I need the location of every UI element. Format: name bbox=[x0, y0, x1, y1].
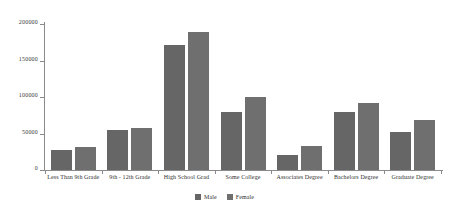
bar-female bbox=[75, 147, 96, 170]
y-axis-tick-label: 200000 bbox=[19, 19, 38, 25]
bar-group bbox=[277, 24, 322, 170]
x-axis-category-label: Some College bbox=[215, 174, 272, 180]
x-axis-category-label: Associates Degree bbox=[271, 174, 328, 180]
bar-male bbox=[277, 155, 298, 170]
x-axis-category-label: Less Than 9th Grade bbox=[45, 174, 102, 180]
y-axis-tick-label: 100000 bbox=[19, 92, 38, 98]
bar-female bbox=[188, 32, 209, 170]
y-axis-tick-label: 0 bbox=[35, 165, 38, 171]
bar-female bbox=[131, 128, 152, 170]
bar-group bbox=[164, 24, 209, 170]
y-axis-tick-label: 150000 bbox=[19, 56, 38, 62]
legend-swatch-icon bbox=[195, 194, 201, 200]
x-axis-category-label: High School Grad bbox=[158, 174, 215, 180]
bar-group bbox=[390, 24, 435, 170]
x-axis-category-label: 9th - 12th Grade bbox=[102, 174, 159, 180]
bar-female bbox=[358, 103, 379, 170]
legend-item-male[interactable]: Male bbox=[195, 194, 217, 200]
bar-group bbox=[107, 24, 152, 170]
x-axis-tick bbox=[441, 170, 442, 174]
plot-area bbox=[45, 24, 441, 170]
x-axis-category-label: Graduate Degree bbox=[384, 174, 441, 180]
bar-male bbox=[164, 45, 185, 170]
chart-legend: MaleFemale bbox=[0, 194, 449, 200]
legend-label: Female bbox=[236, 194, 254, 200]
legend-item-female[interactable]: Female bbox=[227, 194, 254, 200]
x-axis-line bbox=[44, 170, 443, 171]
bar-chart: 050000100000150000200000 Less Than 9th G… bbox=[0, 0, 449, 214]
bar-female bbox=[245, 97, 266, 170]
bar-male bbox=[334, 112, 355, 170]
y-axis-tick-label: 50000 bbox=[22, 129, 38, 135]
bar-male bbox=[107, 130, 128, 170]
bar-group bbox=[51, 24, 96, 170]
bar-group bbox=[334, 24, 379, 170]
bar-male bbox=[51, 150, 72, 170]
legend-label: Male bbox=[204, 194, 217, 200]
bar-female bbox=[301, 146, 322, 170]
legend-swatch-icon bbox=[227, 194, 233, 200]
bar-group bbox=[221, 24, 266, 170]
bar-female bbox=[414, 120, 435, 170]
bar-male bbox=[221, 112, 242, 170]
bar-male bbox=[390, 132, 411, 170]
x-axis-category-label: Bachelors Degree bbox=[328, 174, 385, 180]
